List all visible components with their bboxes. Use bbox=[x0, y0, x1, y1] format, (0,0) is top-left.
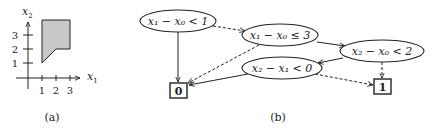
x-axis-label: x1 bbox=[87, 70, 98, 85]
svg-text:x₁ − x₀ < 1: x₁ − x₀ < 1 bbox=[148, 15, 209, 28]
y-axis-label: x2 bbox=[22, 5, 33, 20]
edge-n3-n4 bbox=[318, 58, 343, 63]
x-tick-label-2: 2 bbox=[53, 85, 59, 96]
svg-text:x₂ − x₀ < 2: x₂ − x₀ < 2 bbox=[352, 45, 413, 58]
y-tick-label-1: 1 bbox=[12, 58, 18, 69]
feasible-region bbox=[42, 20, 70, 63]
node-n1: x₁ − x₀ < 1 bbox=[140, 10, 216, 32]
node-n3: x₂ − x₀ < 2 bbox=[340, 40, 424, 62]
figure-a-plot: 1 2 3 1 2 3 x1 x2 (a) bbox=[12, 5, 98, 124]
terminal-0: 0 bbox=[170, 83, 187, 98]
y-tick-label-2: 2 bbox=[12, 44, 18, 55]
node-n2: x₁ − x₀ ≤ 3 bbox=[242, 24, 318, 46]
svg-text:0: 0 bbox=[175, 85, 183, 98]
caption-a: (a) bbox=[44, 111, 59, 124]
caption-b: (b) bbox=[270, 111, 286, 124]
svg-text:x₁ − x₀ ≤ 3: x₁ − x₀ ≤ 3 bbox=[250, 29, 311, 42]
edge-n2-n3 bbox=[317, 42, 345, 46]
figure-b-diagram: x₁ − x₀ < 1 x₁ − x₀ ≤ 3 x₂ − x₀ < 2 x₂ −… bbox=[140, 10, 424, 124]
x-tick-label-1: 1 bbox=[39, 85, 45, 96]
terminal-1: 1 bbox=[374, 79, 391, 94]
y-tick-label-3: 3 bbox=[12, 30, 18, 41]
edge-n4-t1 bbox=[315, 74, 373, 85]
svg-text:1: 1 bbox=[379, 81, 387, 94]
node-n4: x₂ − x₁ < 0 bbox=[242, 57, 322, 79]
svg-text:x₂ − x₁ < 0: x₂ − x₁ < 0 bbox=[252, 62, 313, 75]
figure-canvas: 1 2 3 1 2 3 x1 x2 (a) x₁ − x₀ < 1 bbox=[0, 0, 438, 132]
edge-n4-t0 bbox=[189, 74, 248, 85]
edge-n1-n2 bbox=[213, 26, 245, 31]
x-tick-label-3: 3 bbox=[67, 85, 73, 96]
